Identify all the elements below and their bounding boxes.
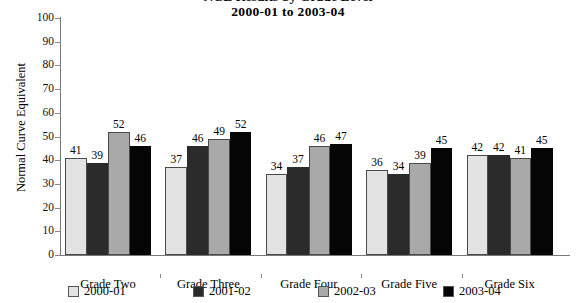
bar-value-label: 52 bbox=[113, 118, 125, 130]
bar-value-label: 45 bbox=[436, 134, 448, 146]
bar-group-bars: 34374647 bbox=[266, 18, 352, 255]
y-axis-title: Normal Curve Equivalent bbox=[14, 28, 29, 228]
x-tick-mark bbox=[160, 274, 161, 278]
legend-swatch-icon bbox=[193, 286, 204, 297]
bar[interactable]: 39 bbox=[87, 163, 109, 255]
legend-item[interactable]: 2002-03 bbox=[288, 284, 413, 299]
bar[interactable]: 45 bbox=[531, 148, 553, 255]
bar-value-label: 37 bbox=[292, 153, 304, 165]
bar-value-label: 46 bbox=[314, 132, 326, 144]
bar[interactable]: 46 bbox=[187, 146, 209, 255]
bar[interactable]: 45 bbox=[431, 148, 453, 255]
bar-group: 36343945 bbox=[366, 18, 452, 255]
bar[interactable]: 37 bbox=[287, 167, 309, 255]
bar[interactable]: 49 bbox=[208, 139, 230, 255]
bar-group: 37464952 bbox=[165, 18, 251, 255]
bar-value-label: 47 bbox=[335, 130, 347, 142]
bar-value-label: 39 bbox=[414, 149, 426, 161]
chart-subtitle: 2000-01 to 2003-04 bbox=[0, 5, 576, 20]
plot-area: 41395246Grade Two37464952Grade Three3437… bbox=[61, 18, 569, 255]
y-tick-mark bbox=[55, 255, 61, 256]
bar[interactable]: 41 bbox=[65, 158, 87, 255]
legend-label: 2003-04 bbox=[459, 284, 501, 299]
bar-value-label: 46 bbox=[192, 132, 204, 144]
legend-item[interactable]: 2003-04 bbox=[413, 284, 538, 299]
bar-value-label: 42 bbox=[472, 141, 484, 153]
bar[interactable]: 46 bbox=[130, 146, 152, 255]
bar-value-label: 49 bbox=[213, 125, 225, 137]
bar[interactable]: 42 bbox=[467, 155, 489, 255]
bar-group: 34374647 bbox=[266, 18, 352, 255]
bar-value-label: 52 bbox=[235, 118, 247, 130]
bar-group: 42424145 bbox=[467, 18, 553, 255]
bar[interactable]: 47 bbox=[330, 144, 352, 255]
bar-value-label: 41 bbox=[70, 144, 82, 156]
bar[interactable]: 39 bbox=[409, 163, 431, 255]
chart-legend: 2000-012001-022002-032003-04 bbox=[0, 282, 576, 300]
legend-item[interactable]: 2000-01 bbox=[38, 284, 163, 299]
bar-value-label: 41 bbox=[515, 144, 527, 156]
bar[interactable]: 41 bbox=[510, 158, 532, 255]
bar-value-label: 34 bbox=[393, 160, 405, 172]
bar-value-label: 42 bbox=[493, 141, 505, 153]
bar[interactable]: 42 bbox=[488, 155, 510, 255]
chart-title-block: NCE Results by Grade Level 2000-01 to 20… bbox=[0, 0, 576, 19]
bar-group-bars: 36343945 bbox=[366, 18, 452, 255]
y-axis-title-wrap: Normal Curve Equivalent bbox=[0, 0, 30, 303]
x-tick-mark bbox=[261, 274, 262, 278]
x-tick-mark bbox=[462, 274, 463, 278]
bar-value-label: 46 bbox=[135, 132, 147, 144]
legend-label: 2002-03 bbox=[334, 284, 376, 299]
bar[interactable]: 52 bbox=[230, 132, 252, 255]
bar[interactable]: 46 bbox=[309, 146, 331, 255]
bar-value-label: 34 bbox=[271, 160, 283, 172]
x-tick-mark bbox=[361, 274, 362, 278]
bar-value-label: 37 bbox=[170, 153, 182, 165]
legend-label: 2000-01 bbox=[84, 284, 126, 299]
bar-group: 41395246 bbox=[65, 18, 151, 255]
bar[interactable]: 34 bbox=[388, 174, 410, 255]
legend-label: 2001-02 bbox=[209, 284, 251, 299]
bar-group-bars: 37464952 bbox=[165, 18, 251, 255]
bar[interactable]: 34 bbox=[266, 174, 288, 255]
legend-swatch-icon bbox=[318, 286, 329, 297]
bar[interactable]: 37 bbox=[165, 167, 187, 255]
bar-value-label: 39 bbox=[92, 149, 104, 161]
nce-results-bar-chart: NCE Results by Grade Level 2000-01 to 20… bbox=[0, 0, 576, 303]
x-axis-line bbox=[60, 255, 570, 256]
bar[interactable]: 52 bbox=[108, 132, 130, 255]
bar-value-label: 36 bbox=[371, 156, 383, 168]
bar-group-bars: 41395246 bbox=[65, 18, 151, 255]
legend-item[interactable]: 2001-02 bbox=[163, 284, 288, 299]
bar[interactable]: 36 bbox=[366, 170, 388, 255]
legend-swatch-icon bbox=[443, 286, 454, 297]
bar-group-bars: 42424145 bbox=[467, 18, 553, 255]
legend-swatch-icon bbox=[68, 286, 79, 297]
bar-value-label: 45 bbox=[536, 134, 548, 146]
